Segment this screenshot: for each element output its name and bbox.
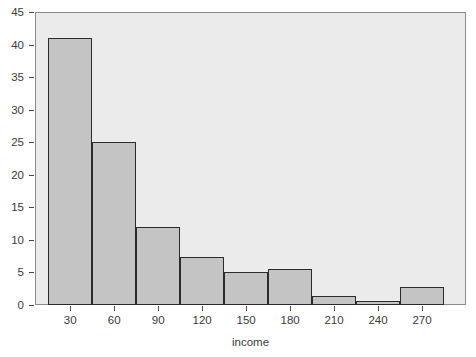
y-tick-mark [29,175,34,176]
histogram-bar [180,257,224,305]
y-tick-label: 5 [0,266,24,278]
x-tick-mark [334,306,335,311]
y-tick-mark [29,272,34,273]
x-tick-label: 210 [324,314,343,326]
x-tick-label: 60 [108,314,121,326]
y-tick-label: 25 [0,136,24,148]
x-axis-title: income [232,336,269,348]
y-tick-mark [29,77,34,78]
x-tick-mark [114,306,115,311]
y-tick-mark [29,207,34,208]
x-tick-mark [158,306,159,311]
x-tick-mark [246,306,247,311]
y-tick-mark [29,12,34,13]
y-tick-label: 40 [0,39,24,51]
x-tick-label: 150 [237,314,256,326]
y-tick-label: 20 [0,169,24,181]
y-tick-label: 10 [0,234,24,246]
x-tick-label: 30 [64,314,77,326]
y-tick-label: 30 [0,104,24,116]
x-tick-mark [378,306,379,311]
x-tick-mark [290,306,291,311]
histogram-bar [268,269,312,305]
x-tick-label: 120 [193,314,212,326]
x-tick-label: 240 [368,314,387,326]
histogram-bar [400,287,444,305]
histogram-bar [224,272,268,305]
histogram-bar [356,301,400,305]
x-tick-label: 90 [152,314,165,326]
x-tick-mark [422,306,423,311]
histogram-figure: 051015202530354045 306090120150180210240… [0,0,476,357]
histogram-bar [312,296,356,305]
histogram-bar [136,227,180,305]
y-tick-label: 35 [0,71,24,83]
y-tick-mark [29,142,34,143]
y-tick-label: 45 [0,6,24,18]
x-tick-label: 270 [412,314,431,326]
y-tick-mark [29,240,34,241]
histogram-bar [92,142,136,305]
histogram-bar [48,38,92,305]
y-tick-mark [29,110,34,111]
x-tick-mark [70,306,71,311]
y-tick-label: 15 [0,201,24,213]
x-tick-mark [202,306,203,311]
y-tick-mark [29,45,34,46]
y-tick-label: 0 [0,299,24,311]
x-tick-label: 180 [280,314,299,326]
y-tick-mark [29,305,34,306]
